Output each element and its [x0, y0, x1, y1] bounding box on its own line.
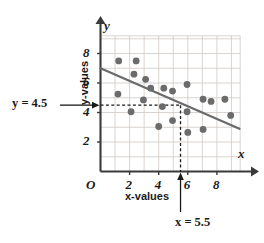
data-point: [128, 108, 135, 115]
y-reference-callout-label: y = 4.5: [12, 96, 47, 111]
data-point: [160, 85, 167, 92]
data-point: [200, 126, 207, 133]
data-point: [147, 85, 154, 92]
y-axis-title: y-values: [78, 61, 90, 105]
origin-label: O: [86, 177, 95, 193]
data-point: [200, 96, 207, 103]
y-axis-letter: y: [104, 18, 110, 34]
x-tick-label: 6: [184, 177, 191, 193]
x-axis-title: x-values: [125, 190, 169, 202]
y-tick-label: 8: [83, 45, 90, 61]
data-point: [184, 129, 191, 136]
y-tick-label: 2: [83, 133, 90, 149]
data-point: [115, 57, 122, 64]
data-point: [227, 112, 234, 119]
data-point: [133, 57, 140, 64]
data-point: [155, 123, 162, 130]
data-point: [115, 91, 122, 98]
data-points: [115, 57, 235, 135]
data-point: [169, 117, 176, 124]
x-tick-label: 8: [213, 177, 220, 193]
data-point: [184, 108, 191, 115]
x-axis-letter: x: [238, 146, 245, 162]
data-point: [131, 71, 138, 78]
data-point: [184, 81, 191, 88]
data-point: [140, 97, 147, 104]
y-tick-label: 4: [83, 104, 90, 120]
data-point: [142, 76, 149, 83]
reference-lines: [101, 105, 181, 171]
data-point: [222, 96, 229, 103]
data-point: [169, 88, 176, 95]
x-reference-callout-label: x = 5.5: [175, 215, 210, 230]
data-point: [208, 98, 215, 105]
data-point: [159, 103, 166, 110]
chart-canvas: [0, 0, 264, 243]
scatter-plot-figure: 8 6 4 2 2 4 6 8 O x y x-values y-values …: [0, 0, 264, 243]
gridlines: [101, 36, 241, 172]
